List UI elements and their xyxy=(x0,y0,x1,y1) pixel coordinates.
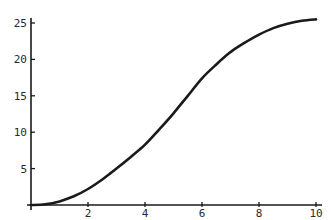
data-line xyxy=(31,19,316,205)
x-tick-label: 10 xyxy=(309,207,322,220)
y-tick-label: 10 xyxy=(14,126,27,139)
x-tick-label: 6 xyxy=(199,207,206,220)
y-tick-label: 25 xyxy=(14,17,27,30)
y-tick-label: 15 xyxy=(14,90,27,103)
x-tick-label: 2 xyxy=(85,207,92,220)
y-tick-label: 20 xyxy=(14,53,27,66)
y-tick-label: 5 xyxy=(20,163,27,176)
line-chart: 246810510152025 xyxy=(0,0,333,220)
x-tick-label: 4 xyxy=(142,207,149,220)
x-tick-label: 8 xyxy=(256,207,263,220)
